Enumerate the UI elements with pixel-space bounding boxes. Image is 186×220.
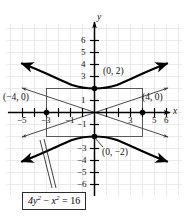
equation-callout: 4y2 − x2 = 16 bbox=[22, 192, 86, 210]
label-vertex-upper: (0, 2) bbox=[103, 67, 124, 77]
y-tick-label-4: 4 bbox=[81, 60, 86, 69]
leader-lines bbox=[40, 138, 103, 189]
label-corner-left: (−4, 0) bbox=[3, 93, 29, 103]
y-tick-label--6: −6 bbox=[77, 180, 87, 189]
leader-vertex-lower bbox=[95, 138, 104, 148]
x-tick-label-6: 6 bbox=[164, 116, 169, 125]
y-tick-label-5: 5 bbox=[81, 48, 86, 57]
label-corner-right: (4, 0) bbox=[142, 93, 163, 103]
equation-rhs: 16 bbox=[70, 195, 80, 206]
x-tick-label-3: 3 bbox=[128, 116, 133, 125]
x-tick-label--1: −1 bbox=[65, 116, 75, 125]
y-tick-label-3: 3 bbox=[81, 72, 86, 81]
axis-lines bbox=[8, 22, 170, 196]
equation-exp-y: 2 bbox=[37, 194, 41, 202]
graph-canvas bbox=[0, 0, 186, 220]
y-tick-label--5: −5 bbox=[77, 168, 87, 177]
y-tick-label-1: 1 bbox=[81, 96, 86, 105]
y-tick-label--3: −3 bbox=[77, 144, 87, 153]
y-tick-label--4: −4 bbox=[77, 156, 87, 165]
x-tick-label-5: 5 bbox=[152, 116, 157, 125]
equation-exp-x: 2 bbox=[56, 194, 60, 202]
label-vertex-lower: (0, −2) bbox=[102, 148, 128, 158]
hyperbola-figure: x y −5 −3 −1 3 5 6 6 5 4 3 1 −1 −3 −4 −5… bbox=[0, 0, 186, 220]
equation-operator: − bbox=[43, 195, 49, 206]
y-tick-label--1: −1 bbox=[77, 120, 87, 129]
y-tick-label-6: 6 bbox=[81, 36, 86, 45]
point-vertex-lower bbox=[92, 134, 98, 140]
y-axis-label: y bbox=[97, 13, 101, 23]
point-vertex-upper bbox=[92, 86, 98, 92]
equation-equals: = bbox=[62, 195, 68, 206]
x-tick-label--5: −5 bbox=[17, 116, 27, 125]
point-corner-right bbox=[140, 110, 146, 116]
x-axis-label: x bbox=[173, 107, 177, 117]
x-tick-label--3: −3 bbox=[41, 116, 51, 125]
